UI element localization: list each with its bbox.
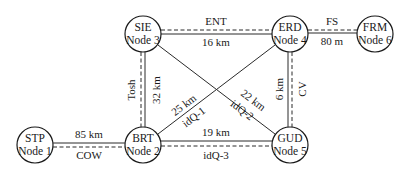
link-idq3-name: idQ-3 xyxy=(203,149,229,161)
node-2-code: BRT xyxy=(132,132,154,144)
node-4-code: ERD xyxy=(279,21,302,33)
link-tosh-distance: 32 km xyxy=(150,76,162,104)
link-idq3-distance: 19 km xyxy=(202,126,230,138)
link-fs-name: FS xyxy=(326,15,338,27)
node-6: FRM Node 6 xyxy=(357,16,393,52)
node-3-label: Node 3 xyxy=(126,34,160,46)
link-cow-distance: 85 km xyxy=(75,128,103,140)
link-ent-name: ENT xyxy=(205,15,227,27)
node-2: BRT Node 2 xyxy=(125,127,161,163)
node-5: GUD Node 5 xyxy=(272,127,308,163)
link-fs: FS 80 m xyxy=(308,15,357,47)
link-cv: 6 km CV xyxy=(273,52,308,127)
node-1: STP Node 1 xyxy=(17,127,53,163)
link-ent: ENT 16 km xyxy=(161,15,272,48)
link-cow-name: COW xyxy=(76,149,102,161)
node-4-label: Node 4 xyxy=(273,34,307,46)
node-2-label: Node 2 xyxy=(126,145,160,157)
network-diagram: 85 km COW Tosh 32 km ENT 16 km FS 80 m 6… xyxy=(0,0,401,170)
link-fs-distance: 80 m xyxy=(321,35,344,47)
node-1-label: Node 1 xyxy=(18,145,52,157)
node-5-label: Node 5 xyxy=(273,145,307,157)
node-4: ERD Node 4 xyxy=(272,16,308,52)
link-cv-name: CV xyxy=(296,81,308,96)
link-cv-distance: 6 km xyxy=(273,77,285,100)
node-1-code: STP xyxy=(25,132,45,144)
link-cow: 85 km COW xyxy=(53,128,125,161)
node-3-code: SIE xyxy=(134,21,151,33)
node-5-code: GUD xyxy=(278,132,303,144)
node-6-label: Node 6 xyxy=(358,34,392,46)
node-3: SIE Node 3 xyxy=(125,16,161,52)
link-tosh-name: Tosh xyxy=(125,79,137,101)
link-ent-distance: 16 km xyxy=(202,36,230,48)
link-idq3: 19 km idQ-3 xyxy=(161,126,272,161)
node-6-code: FRM xyxy=(363,21,387,33)
link-tosh: Tosh 32 km xyxy=(125,52,162,127)
